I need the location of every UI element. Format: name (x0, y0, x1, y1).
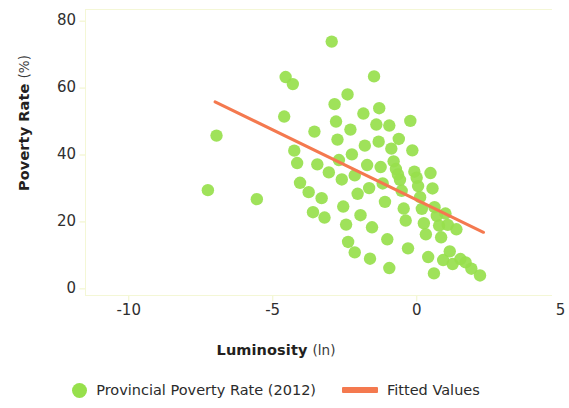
x-axis-tick-label: -10 (99, 303, 159, 318)
x-axis-title: Luminosity (ln) (0, 340, 552, 359)
chart-legend: Provincial Poverty Rate (2012) Fitted Va… (0, 376, 552, 404)
legend-label-fitted-line: Fitted Values (387, 382, 480, 398)
x-axis-title-main: Luminosity (217, 342, 308, 358)
y-axis-tick-label: 40 (36, 147, 76, 162)
x-axis-tick-label: 5 (531, 303, 569, 318)
y-axis-tick-label: 60 (36, 80, 76, 95)
y-axis-tick-label: 20 (36, 214, 76, 229)
y-axis-tick-labels: 020406080 (28, 0, 76, 300)
legend-item-fitted-line: Fitted Values (342, 382, 480, 398)
legend-label-scatter: Provincial Poverty Rate (2012) (96, 382, 316, 398)
x-axis-tick-label: -5 (243, 303, 303, 318)
x-axis-tick-labels: -10-505 (0, 303, 552, 327)
circle-marker-icon (72, 383, 87, 398)
x-axis-title-unit: (ln) (313, 342, 336, 358)
y-axis-tick-label: 0 (36, 281, 76, 296)
y-axis-tick-label: 80 (36, 13, 76, 28)
legend-item-scatter: Provincial Poverty Rate (2012) (72, 382, 316, 398)
x-axis-tick-label: 0 (387, 303, 447, 318)
line-marker-icon (342, 387, 378, 393)
plot-area (85, 9, 552, 296)
